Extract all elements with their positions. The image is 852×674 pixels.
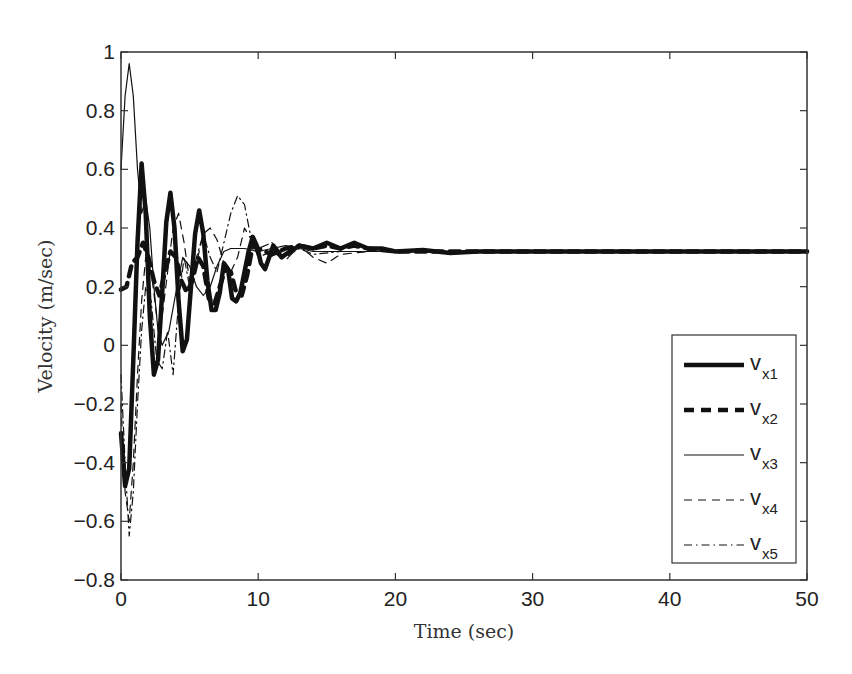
x-tick-label: 0: [115, 587, 127, 610]
velocity-chart: 01020304050−0.8−0.6−0.4−0.200.20.40.60.8…: [0, 0, 852, 674]
y-axis-title: Velocity (m/sec): [34, 240, 56, 394]
y-tick-label: −0.8: [74, 568, 115, 591]
y-tick-label: −0.2: [74, 392, 115, 415]
y-tick-label: 0: [103, 333, 115, 356]
x-tick-label: 20: [384, 587, 407, 610]
x-tick-label: 50: [795, 587, 818, 610]
y-tick-label: −0.6: [74, 509, 115, 532]
y-tick-label: 1: [103, 40, 115, 63]
y-tick-label: −0.4: [74, 451, 116, 474]
x-axis-title: Time (sec): [414, 620, 515, 642]
y-tick-label: 0.6: [86, 157, 115, 180]
x-tick-label: 30: [521, 587, 544, 610]
x-tick-label: 10: [247, 587, 270, 610]
y-tick-label: 0.2: [86, 275, 115, 298]
legend: vx1vx2vx3vx4vx5: [672, 335, 796, 563]
y-tick-label: 0.8: [86, 99, 115, 122]
series-line-v-x3: [121, 64, 807, 346]
y-tick-label: 0.4: [86, 216, 116, 239]
x-tick-label: 40: [658, 587, 681, 610]
